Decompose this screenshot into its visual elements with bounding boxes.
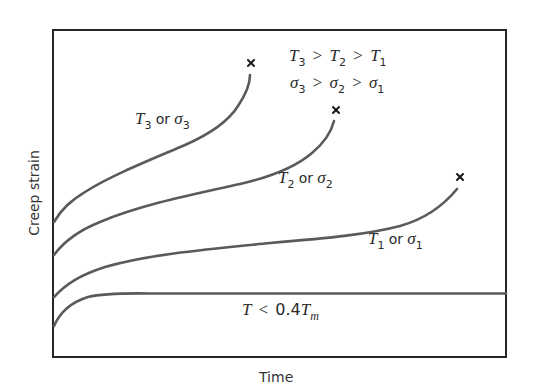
curve-t3-sigma3: [54, 75, 250, 222]
x-axis-label: Time: [259, 369, 293, 385]
stress-order-annotation: σ3 > σ2 > σ1: [290, 74, 384, 91]
rupture-marker-t3: [248, 60, 254, 66]
rupture-marker-t2: [333, 107, 339, 113]
y-axis-label: Creep strain: [26, 148, 42, 238]
creep-curve-chart: [0, 0, 533, 392]
curve-label-t3: T3 or σ3: [135, 110, 190, 127]
curve-label-low-temperature: T < 0.4Tm: [242, 301, 319, 318]
curve-label-t2: T2 or σ2: [278, 169, 333, 186]
curve-label-t1: T1 or σ1: [368, 230, 423, 247]
rupture-marker-t1: [457, 174, 463, 180]
temperature-order-annotation: T3 > T2 > T1: [289, 47, 387, 64]
